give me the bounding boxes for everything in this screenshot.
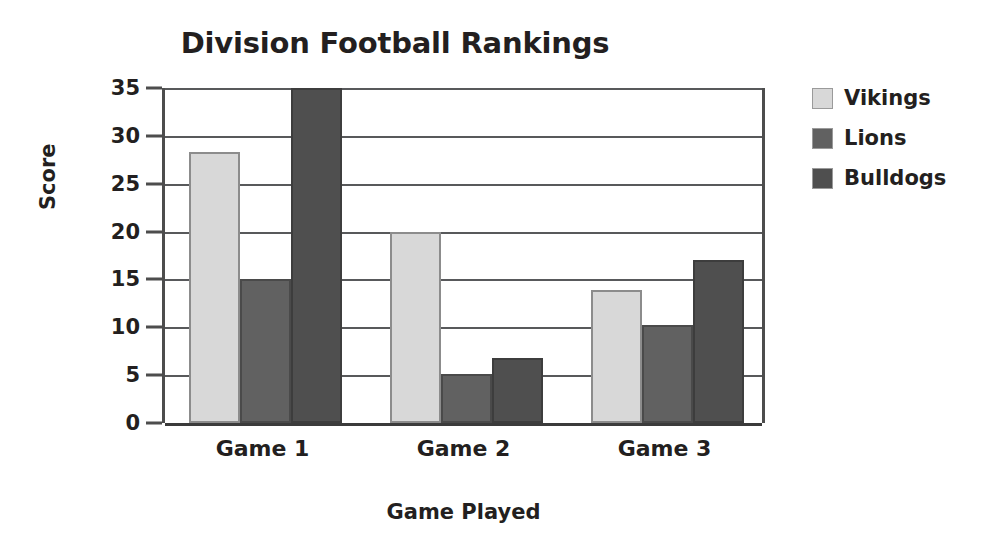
y-tick-mark-15 bbox=[146, 278, 162, 281]
y-tick-label-5: 5 bbox=[125, 363, 140, 387]
y-axis-ticks: 05101520253035 bbox=[100, 88, 162, 423]
bar-vikings-game-1 bbox=[189, 152, 240, 423]
legend-swatch-icon-lions bbox=[812, 128, 833, 149]
legend-item-lions[interactable]: Lions bbox=[812, 126, 946, 150]
y-tick-label-30: 30 bbox=[111, 124, 140, 148]
y-tick-mark-30 bbox=[146, 134, 162, 137]
x-tick-label-game-1: Game 1 bbox=[216, 436, 310, 461]
bar-bulldogs-game-3 bbox=[693, 260, 744, 423]
y-tick-label-25: 25 bbox=[111, 172, 140, 196]
legend-label: Vikings bbox=[844, 86, 931, 110]
y-axis-title: Score bbox=[36, 143, 60, 210]
bar-bulldogs-game-1 bbox=[291, 88, 342, 423]
chart-title: Division Football Rankings bbox=[0, 26, 790, 60]
x-tick-label-game-3: Game 3 bbox=[618, 436, 712, 461]
plot-area bbox=[162, 88, 765, 423]
y-tick-mark-10 bbox=[146, 326, 162, 329]
legend-item-vikings[interactable]: Vikings bbox=[812, 86, 946, 110]
legend-swatch-icon-bulldogs bbox=[812, 168, 833, 189]
y-tick-label-35: 35 bbox=[111, 76, 140, 100]
y-tick-label-15: 15 bbox=[111, 267, 140, 291]
y-tick-mark-35 bbox=[146, 87, 162, 90]
bar-lions-game-3 bbox=[642, 325, 693, 423]
y-tick-label-10: 10 bbox=[111, 315, 140, 339]
legend-label: Lions bbox=[844, 126, 906, 150]
y-tick-mark-20 bbox=[146, 230, 162, 233]
y-tick-mark-0 bbox=[146, 422, 162, 425]
legend-label: Bulldogs bbox=[844, 166, 946, 190]
y-tick-mark-5 bbox=[146, 374, 162, 377]
gridline-0 bbox=[165, 423, 762, 426]
bar-vikings-game-3 bbox=[591, 290, 642, 423]
bars-layer bbox=[165, 88, 762, 423]
x-tick-label-game-2: Game 2 bbox=[417, 436, 511, 461]
x-axis-tick-labels: Game 1Game 2Game 3 bbox=[162, 436, 765, 468]
y-tick-label-20: 20 bbox=[111, 220, 140, 244]
x-axis-title: Game Played bbox=[162, 500, 765, 524]
bar-bulldogs-game-2 bbox=[492, 358, 543, 423]
bar-lions-game-2 bbox=[441, 374, 492, 423]
legend-swatch-icon-vikings bbox=[812, 88, 833, 109]
bar-lions-game-1 bbox=[240, 279, 291, 423]
chart-legend: VikingsLionsBulldogs bbox=[812, 86, 946, 206]
chart-container: Division Football Rankings Score 0510152… bbox=[0, 0, 981, 558]
legend-item-bulldogs[interactable]: Bulldogs bbox=[812, 166, 946, 190]
bar-vikings-game-2 bbox=[390, 232, 441, 423]
y-tick-label-0: 0 bbox=[125, 411, 140, 435]
y-tick-mark-25 bbox=[146, 182, 162, 185]
